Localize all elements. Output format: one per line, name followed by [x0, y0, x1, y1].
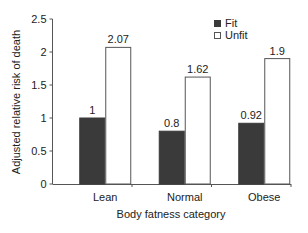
- y-tick-label: 2: [40, 46, 46, 58]
- y-axis: 00.511.522.5: [31, 13, 52, 190]
- bar-fit-lean: [80, 118, 105, 184]
- x-tick-label: Obese: [248, 191, 280, 203]
- bar-unfit-obese: [265, 59, 290, 184]
- y-tick-label: 1.5: [31, 79, 46, 91]
- bar-fit-obese: [239, 123, 264, 184]
- bar-chart: 00.511.522.5 12.07Lean0.81.62Normal0.921…: [0, 0, 308, 233]
- bar-unfit-normal: [185, 77, 210, 184]
- bar-fit-normal: [159, 131, 184, 184]
- y-tick-label: 0: [40, 178, 46, 190]
- value-label: 1.9: [270, 45, 285, 57]
- bars: 12.07Lean0.81.62Normal0.921.9Obese: [80, 33, 290, 203]
- y-axis-title: Adjusted relative risk of death: [10, 30, 22, 174]
- bar-group-normal: 0.81.62Normal: [159, 63, 210, 203]
- value-label: 2.07: [108, 33, 129, 45]
- bar-unfit-lean: [106, 47, 131, 184]
- legend-swatch-unfit: [215, 33, 221, 39]
- value-label: 1: [89, 104, 95, 116]
- legend: Fit Unfit: [214, 17, 248, 41]
- legend-swatch-fit: [214, 20, 221, 27]
- x-tick-label: Lean: [93, 191, 117, 203]
- x-axis-title: Body fatness category: [117, 208, 226, 220]
- bar-group-lean: 12.07Lean: [80, 33, 131, 203]
- y-tick-label: 0.5: [31, 145, 46, 157]
- value-label: 0.92: [241, 109, 262, 121]
- legend-label-unfit: Unfit: [225, 29, 248, 41]
- y-tick-label: 1: [40, 112, 46, 124]
- bar-group-obese: 0.921.9Obese: [239, 45, 290, 203]
- legend-label-fit: Fit: [225, 17, 237, 29]
- value-label: 1.62: [187, 63, 208, 75]
- value-label: 0.8: [164, 117, 179, 129]
- x-tick-label: Normal: [167, 191, 202, 203]
- y-tick-label: 2.5: [31, 13, 46, 25]
